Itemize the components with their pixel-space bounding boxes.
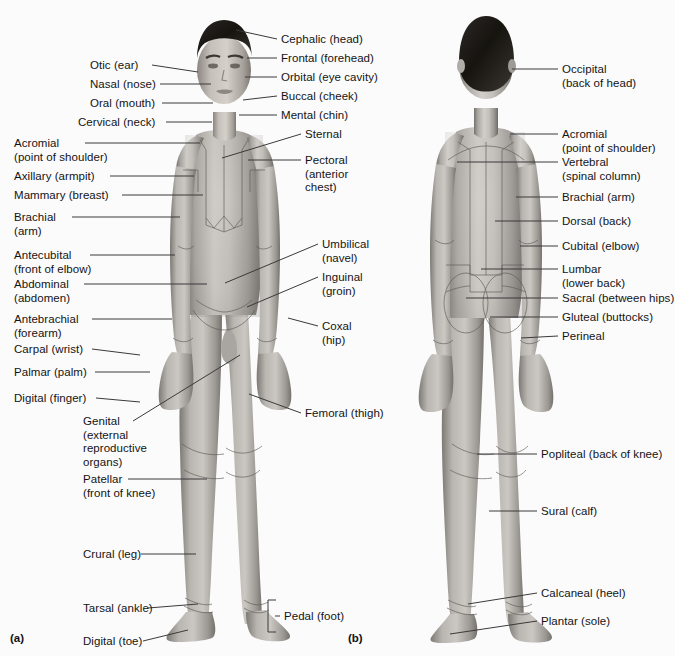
caption-a: (a) — [10, 632, 24, 644]
label-gluteal: Gluteal (buttocks) — [562, 311, 653, 325]
label-inguinal: Inguinal (groin) — [322, 271, 363, 298]
label-dorsal: Dorsal (back) — [562, 215, 631, 229]
label-cubital: Cubital (elbow) — [562, 240, 639, 254]
label-lumbar: Lumbar (lower back) — [562, 263, 625, 290]
label-palmar: Palmar (palm) — [14, 366, 87, 380]
label-nasal: Nasal (nose) — [90, 78, 156, 92]
label-popliteal: Popliteal (back of knee) — [541, 448, 662, 462]
label-occipital: Occipital (back of head) — [562, 63, 636, 90]
posterior-body — [419, 16, 554, 643]
label-brachial-p: Brachial (arm) — [562, 191, 635, 205]
caption-b: (b) — [348, 632, 363, 644]
anatomy-figure: Otic (ear)Nasal (nose)Oral (mouth)Cervic… — [0, 0, 675, 656]
label-crural: Crural (leg) — [83, 548, 141, 562]
label-mammary: Mammary (breast) — [14, 189, 109, 203]
label-coxal: Coxal (hip) — [322, 320, 352, 347]
label-plantar: Plantar (sole) — [541, 615, 610, 629]
label-buccal: Buccal (cheek) — [281, 90, 358, 104]
label-sternal: Sternal — [305, 128, 342, 142]
label-acromial: Acromial (point of shoulder) — [14, 137, 108, 164]
label-brachial: Brachial (arm) — [14, 211, 56, 238]
label-umbilical: Umbilical (navel) — [322, 238, 369, 265]
label-femoral: Femoral (thigh) — [305, 407, 384, 421]
label-digital-finger: Digital (finger) — [14, 392, 86, 406]
label-otic: Otic (ear) — [90, 59, 138, 73]
label-abdominal: Abdominal (abdomen) — [14, 278, 70, 305]
label-frontal: Frontal (forehead) — [281, 52, 374, 66]
anterior-body — [159, 20, 292, 642]
label-sural: Sural (calf) — [541, 505, 597, 519]
label-antebrachial: Antebrachial (forearm) — [14, 313, 79, 340]
label-digital-toe: Digital (toe) — [83, 635, 142, 649]
label-perineal: Perineal — [562, 330, 605, 344]
label-antecubital: Antecubital (front of elbow) — [14, 249, 92, 276]
label-acromial-p: Acromial (point of shoulder) — [562, 128, 656, 155]
label-mental: Mental (chin) — [281, 109, 348, 123]
label-pectoral: Pectoral (anterior chest) — [305, 154, 348, 195]
label-axillary: Axillary (armpit) — [14, 170, 95, 184]
label-oral: Oral (mouth) — [90, 97, 155, 111]
label-sacral: Sacral (between hips) — [562, 292, 674, 306]
label-cervical: Cervical (neck) — [78, 116, 155, 130]
label-carpal: Carpal (wrist) — [14, 343, 83, 357]
label-tarsal: Tarsal (ankle) — [83, 602, 153, 616]
label-genital: Genital (external reproductive organs) — [83, 415, 147, 469]
label-patellar: Patellar (front of knee) — [83, 473, 155, 500]
label-orbital: Orbital (eye cavity) — [281, 71, 378, 85]
label-calcaneal: Calcaneal (heel) — [541, 587, 626, 601]
label-pedal: Pedal (foot) — [284, 610, 344, 624]
label-cephalic: Cephalic (head) — [281, 33, 363, 47]
label-vertebral: Vertebral (spinal column) — [562, 156, 641, 183]
